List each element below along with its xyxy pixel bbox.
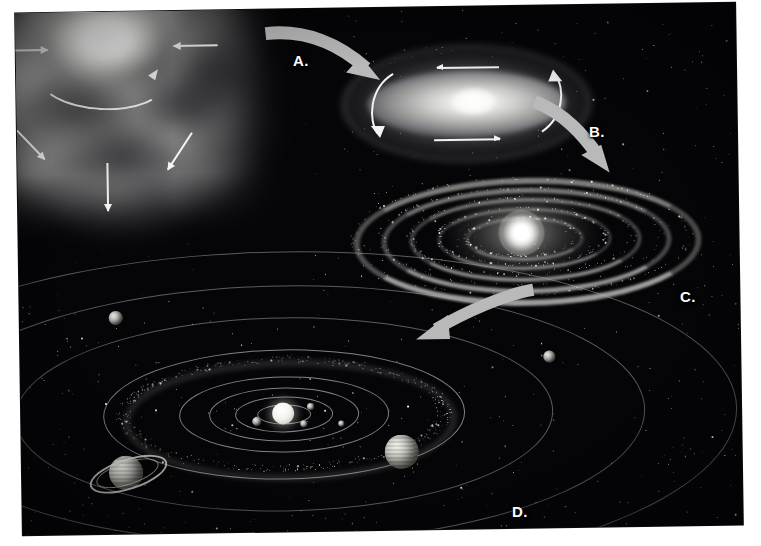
arrow-disk-to-rings — [528, 96, 650, 208]
planet-outer-planet-2 — [109, 311, 123, 325]
planet-inner-planet-a — [252, 416, 261, 425]
label-b: B. — [589, 123, 605, 140]
stage-d-solar-system — [19, 271, 743, 536]
planet-orbits — [19, 271, 739, 282]
protostar — [498, 209, 545, 256]
figure-canvas: A. B. C. D. — [0, 0, 761, 546]
label-d: D. — [512, 503, 528, 520]
scanned-photo-plate — [15, 3, 743, 536]
planet-inner-planet-b — [306, 402, 313, 409]
planet-inner-planet-c — [300, 420, 307, 427]
disk-hot-center — [451, 88, 495, 115]
label-a: A. — [293, 52, 309, 69]
label-c: C. — [680, 288, 696, 305]
planet-inner-planet-d — [338, 421, 344, 427]
arrow-nebula-to-disk — [261, 22, 402, 104]
arrow-rings-to-solar-system — [385, 283, 556, 366]
